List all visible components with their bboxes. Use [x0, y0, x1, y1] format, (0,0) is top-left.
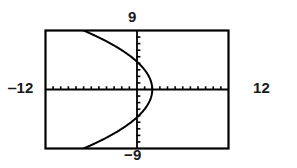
graphing-calculator-screen: 9 ‒12 12 −9: [0, 0, 297, 168]
plot-area: [0, 0, 297, 168]
